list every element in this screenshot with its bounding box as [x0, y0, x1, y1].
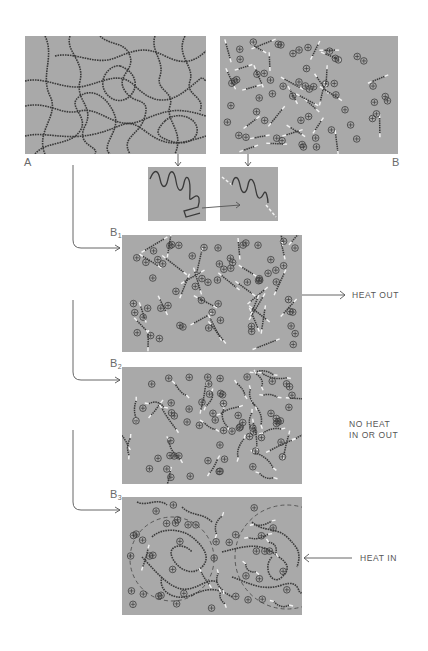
panel-b-label: B	[392, 156, 400, 168]
detail-panel-coiled-chain	[148, 167, 206, 221]
panel-b-dissolved-chains	[220, 36, 398, 154]
ions-aggregated-chains-graphic	[122, 497, 302, 615]
panel-b1-letter: B	[110, 226, 118, 238]
panel-b3-heated	[122, 497, 302, 615]
heat-out-label: HEAT OUT	[352, 290, 399, 301]
ions-curly-chains-graphic	[122, 367, 302, 484]
ions-and-chain-fragments-graphic	[220, 36, 398, 154]
stretched-chain-graphic	[220, 167, 278, 221]
panel-b2-adiabatic	[122, 367, 302, 484]
panel-b1-cooled	[122, 235, 302, 352]
panel-b2-label: B2	[110, 357, 122, 370]
chain-network-graphic	[25, 36, 206, 154]
no-heat-label: NO HEAT IN OR OUT	[349, 419, 398, 441]
panel-a-entangled-chains	[25, 36, 206, 154]
heat-in-label: HEAT IN	[360, 553, 397, 564]
detail-panel-stretched-chain	[220, 167, 278, 221]
panel-b1-label: B1	[110, 226, 122, 239]
panel-a-label: A	[24, 156, 32, 168]
panel-b3-label: B3	[110, 488, 122, 501]
panel-b3-letter: B	[110, 488, 118, 500]
panel-b2-letter: B	[110, 357, 118, 369]
coiled-chain-graphic	[148, 167, 206, 221]
ions-short-chains-graphic	[122, 235, 302, 352]
